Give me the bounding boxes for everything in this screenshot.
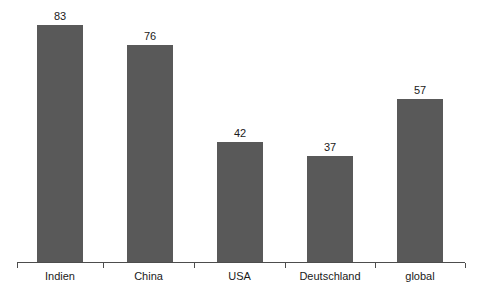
value-label-china: 76 [127, 30, 173, 43]
x-axis-tick-0 [17, 263, 18, 268]
category-label-indien: Indien [17, 270, 103, 283]
bar-usa[interactable] [217, 142, 263, 262]
value-label-usa: 42 [217, 127, 263, 140]
bar-indien[interactable] [37, 25, 83, 262]
bar-chart: 83 76 42 37 57 Indien China USA Deutschl… [0, 0, 480, 296]
bar-deutschland[interactable] [307, 156, 353, 262]
value-label-deutschland: 37 [307, 141, 353, 154]
x-axis-tick-3 [285, 263, 286, 268]
plot-area: 83 76 42 37 57 Indien China USA Deutschl… [0, 0, 480, 296]
value-label-global: 57 [397, 84, 443, 97]
category-label-global: global [375, 270, 465, 283]
x-axis-tick-5 [465, 263, 466, 268]
x-axis-tick-2 [194, 263, 195, 268]
value-label-indien: 83 [37, 10, 83, 23]
category-label-china: China [103, 270, 194, 283]
category-label-deutschland: Deutschland [285, 270, 375, 283]
bar-global[interactable] [397, 99, 443, 262]
x-axis-tick-1 [103, 263, 104, 268]
x-axis-line [17, 262, 465, 263]
x-axis-tick-4 [375, 263, 376, 268]
category-label-usa: USA [194, 270, 285, 283]
bar-china[interactable] [127, 45, 173, 262]
